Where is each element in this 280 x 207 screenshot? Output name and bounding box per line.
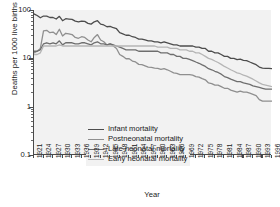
x-tick-label: 1978: [216, 144, 223, 158]
x-tick-label: 1969: [188, 144, 195, 158]
x-tick-label: 1927: [55, 144, 62, 158]
x-tick-label: 1924: [45, 144, 52, 158]
chart-container: Deaths per 1000 live births 1001010.1 In…: [0, 0, 280, 207]
x-axis-tick-labels: 1921192419271930193319361939194219451948…: [33, 158, 271, 188]
x-tick-label: 1939: [93, 144, 100, 158]
x-tick-label: 1951: [131, 144, 138, 158]
x-tick-label: 1933: [74, 144, 81, 158]
legend-label: Infant mortality: [108, 124, 158, 134]
x-tick-label: 1930: [64, 144, 71, 158]
x-tick-label: 1954: [140, 144, 147, 158]
x-tick-label: 1993: [264, 144, 271, 158]
y-axis-title: Deaths per 1000 live births: [10, 0, 19, 115]
legend-label: Postneonatal mortality: [108, 134, 183, 144]
x-tick-label: 1972: [197, 144, 204, 158]
x-tick-label: 1936: [83, 144, 90, 158]
x-tick-mark: [271, 155, 272, 158]
series-line: [34, 41, 272, 89]
series-line: [34, 14, 272, 69]
x-tick-label: 1975: [207, 144, 214, 158]
x-tick-label: 1981: [226, 144, 233, 158]
x-tick-label: 1957: [150, 144, 157, 158]
series-line: [34, 29, 272, 101]
x-tick-label: 1984: [236, 144, 243, 158]
plot-area: Infant mortalityPostneonatal mortalityLa…: [33, 10, 271, 155]
y-axis: Deaths per 1000 live births 1001010.1: [0, 0, 31, 165]
x-tick-label: 1966: [178, 144, 185, 158]
x-tick-label: 1942: [102, 144, 109, 158]
x-tick-label: 1990: [255, 144, 262, 158]
x-tick-label: 1987: [245, 144, 252, 158]
legend-item[interactable]: Postneonatal mortality: [88, 134, 187, 144]
legend-color-swatch: [88, 129, 104, 130]
legend-item[interactable]: Infant mortality: [88, 124, 187, 134]
x-tick-label: 1963: [169, 144, 176, 158]
x-axis-title: Year: [33, 190, 271, 199]
x-tick-label: 1948: [121, 144, 128, 158]
x-tick-label: 1996: [274, 144, 280, 158]
x-tick-label: 1921: [36, 144, 43, 158]
legend-color-swatch: [88, 139, 104, 140]
x-tick-label: 1945: [112, 144, 119, 158]
x-tick-label: 1960: [159, 144, 166, 158]
